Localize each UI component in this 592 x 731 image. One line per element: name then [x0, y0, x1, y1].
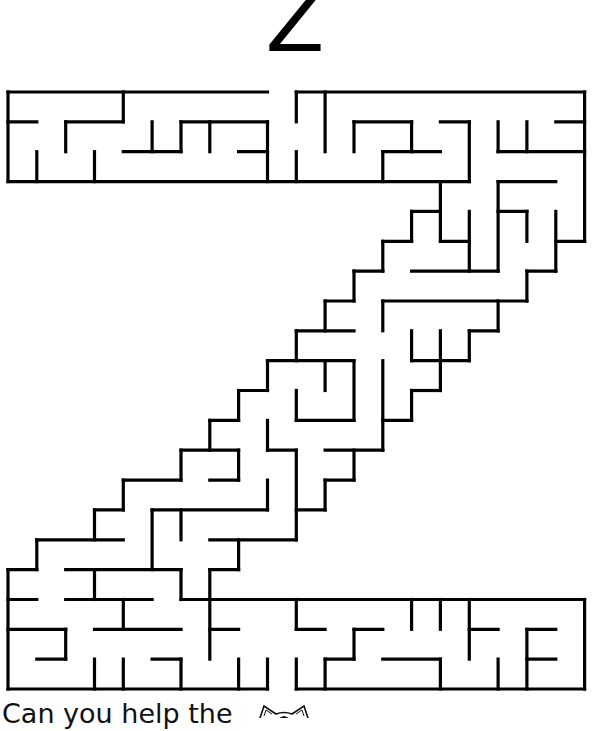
instruction-text: Can you help the [2, 697, 233, 731]
maze-walls [8, 92, 585, 689]
maze-board[interactable] [0, 0, 592, 700]
cat-face-icon [256, 704, 312, 718]
